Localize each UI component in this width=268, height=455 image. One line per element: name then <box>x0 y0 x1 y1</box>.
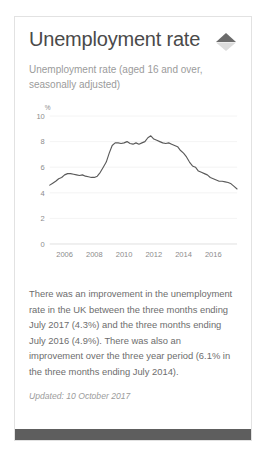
card-header: Unemployment rate <box>15 17 251 52</box>
x-axis-tick-label: 2010 <box>116 250 133 259</box>
card-body-text: There was an improvement in the unemploy… <box>29 286 237 380</box>
card-subtitle: Unemployment rate (aged 16 and over, sea… <box>29 62 237 92</box>
y-axis-tick-label: 0 <box>41 240 45 249</box>
y-axis-tick-label: 4 <box>41 189 45 198</box>
x-axis-tick-label: 2006 <box>56 250 73 259</box>
updated-timestamp: Updated: 10 October 2017 <box>29 391 237 401</box>
y-axis-tick-label: 2 <box>41 214 45 223</box>
x-axis-tick-label: 2012 <box>145 250 162 259</box>
collapse-chevron-diamond-icon[interactable] <box>213 29 239 55</box>
x-axis-tick-label: 2014 <box>175 250 192 259</box>
y-axis-tick-label: 6 <box>41 163 45 172</box>
unemployment-rate-chart: 0246810%200620082010201220142016 <box>23 102 243 274</box>
y-axis-unit-label: % <box>45 104 51 111</box>
x-axis-tick-label: 2008 <box>86 250 103 259</box>
unemployment-rate-card: Unemployment rate Unemployment rate (age… <box>14 16 252 441</box>
page-title: Unemployment rate <box>29 28 204 52</box>
y-axis-tick-label: 8 <box>41 137 45 146</box>
x-axis-tick-label: 2016 <box>205 250 222 259</box>
y-axis-tick-label: 10 <box>36 112 44 121</box>
card-footer-bar <box>15 429 251 440</box>
chart-line-series <box>50 136 237 189</box>
